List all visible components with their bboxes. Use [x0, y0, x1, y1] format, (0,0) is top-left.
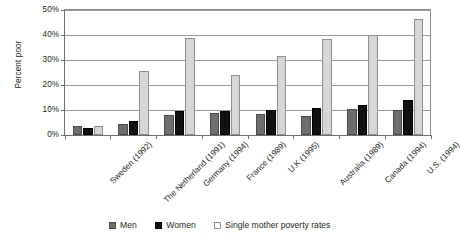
bar-group — [202, 10, 248, 135]
x-tick-mark — [248, 135, 249, 139]
bar-group — [294, 10, 340, 135]
bar-women — [266, 110, 276, 135]
bar-men — [73, 126, 83, 135]
bar-men — [393, 110, 403, 135]
x-tick-mark — [110, 135, 111, 139]
legend-swatch-men — [109, 222, 117, 230]
plot-area: 50%40%30%20%10%0% — [64, 10, 431, 136]
y-axis-title: Percent poor — [14, 5, 23, 125]
y-tick-label-50: 50% — [25, 6, 59, 14]
x-tick-mark-origin — [65, 135, 66, 139]
bar-group — [385, 10, 431, 135]
y-tick-label-10: 10% — [25, 106, 59, 114]
bar-women — [175, 111, 185, 135]
bar-men — [256, 114, 266, 135]
y-tick-label-40: 40% — [25, 31, 59, 39]
legend-item-single-mother: Single mother poverty rates — [214, 221, 331, 230]
bar-men — [301, 116, 311, 135]
x-tick-mark — [202, 135, 203, 139]
bar-group — [248, 10, 294, 135]
bar-single-mother — [322, 39, 332, 135]
bar-women — [312, 108, 322, 136]
bar-single-mother — [414, 19, 424, 135]
bar-women — [83, 128, 93, 136]
legend-swatch-single-mother — [214, 222, 222, 230]
bar-single-mother — [185, 38, 195, 136]
x-axis-label: U.S. (1994) — [425, 140, 461, 176]
bar-group — [111, 10, 157, 135]
bar-women — [358, 105, 368, 135]
legend-label-men: Men — [120, 221, 137, 230]
bar-single-mother — [139, 71, 149, 135]
x-tick-mark — [339, 135, 340, 139]
bar-single-mother — [277, 56, 287, 135]
legend-label-women: Women — [166, 221, 195, 230]
legend-swatch-women — [155, 222, 163, 230]
x-tick-mark — [156, 135, 157, 139]
legend-item-men: Men — [109, 221, 137, 230]
bar-men — [347, 109, 357, 135]
bar-women — [403, 100, 413, 135]
x-tick-mark — [431, 135, 432, 139]
bar-men — [164, 115, 174, 135]
bar-single-mother — [94, 126, 104, 135]
bar-men — [210, 113, 220, 136]
chart-legend: Men Women Single mother poverty rates — [0, 221, 439, 230]
x-axis-label: France (1989) — [245, 140, 288, 183]
x-axis-label: Canada (1994) — [383, 140, 428, 185]
x-axis-label: U.K (1995) — [287, 140, 321, 174]
y-tick-label-0: 0% — [25, 131, 59, 139]
bar-group — [65, 10, 111, 135]
y-tick-label-30: 30% — [25, 56, 59, 64]
bar-single-mother — [231, 75, 241, 135]
bar-women — [220, 111, 230, 135]
x-axis-label: Sweden (1992) — [109, 140, 155, 186]
x-tick-mark — [293, 135, 294, 139]
x-axis-label: Australia (1989) — [338, 140, 385, 187]
y-tick-label-20: 20% — [25, 81, 59, 89]
legend-label-single-mother: Single mother poverty rates — [225, 221, 330, 230]
bar-group — [340, 10, 386, 135]
bar-group — [157, 10, 203, 135]
legend-item-women: Women — [155, 221, 196, 230]
x-tick-mark — [385, 135, 386, 139]
bar-men — [118, 124, 128, 135]
bar-single-mother — [368, 35, 378, 135]
bar-women — [129, 121, 139, 135]
